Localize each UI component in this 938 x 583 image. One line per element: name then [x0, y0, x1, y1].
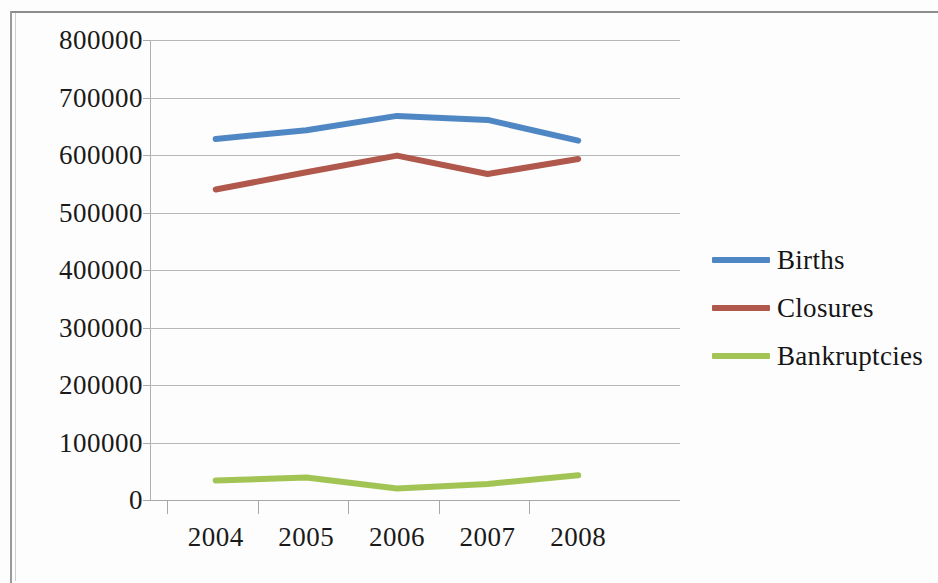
y-axis-tick [143, 328, 150, 329]
y-axis-tick-label: 400000 [59, 257, 143, 284]
y-axis-tick-label: 600000 [59, 142, 143, 169]
chart-screenshot: 8000007000006000005000004000003000002000… [0, 0, 938, 583]
legend-swatch-births-icon [712, 257, 770, 263]
x-axis-tick-label: 2008 [533, 522, 623, 553]
y-axis-tick-label: 200000 [59, 372, 143, 399]
page-frame-top-rule [10, 11, 938, 13]
x-axis-tick [348, 500, 349, 514]
legend-item-closures: Closures [712, 284, 932, 332]
page-frame-left-inner-rule [15, 13, 16, 581]
x-axis-line [150, 500, 680, 501]
gridline [150, 155, 680, 156]
legend-swatch-bankruptcies-icon [712, 353, 770, 359]
y-axis-tick [143, 500, 150, 501]
y-axis-tick-labels: 8000007000006000005000004000003000002000… [18, 40, 143, 500]
y-axis-tick-label: 300000 [59, 315, 143, 342]
gridline [150, 270, 680, 271]
gridline [150, 213, 680, 214]
chart-legend: Births Closures Bankruptcies [712, 236, 932, 380]
x-axis-tick [167, 500, 168, 514]
page-frame-left-rule [10, 11, 12, 583]
y-axis-tick [143, 98, 150, 99]
gridline [150, 98, 680, 99]
y-axis-tick-label: 700000 [59, 85, 143, 112]
y-axis-tick-label: 800000 [59, 27, 143, 54]
legend-swatch-closures-icon [712, 305, 770, 311]
y-axis-tick [143, 443, 150, 444]
y-axis-tick [143, 40, 150, 41]
gridline [150, 328, 680, 329]
y-axis-tick [143, 385, 150, 386]
gridline [150, 40, 680, 41]
x-axis-tick-label: 2007 [443, 522, 533, 553]
y-axis-tick [143, 155, 150, 156]
plot-area [150, 40, 680, 500]
legend-item-births: Births [712, 236, 932, 284]
y-axis-tick [143, 213, 150, 214]
y-axis-tick [143, 270, 150, 271]
legend-label-bankruptcies: Bankruptcies [777, 343, 923, 370]
x-axis-tick-label: 2006 [352, 522, 442, 553]
legend-label-closures: Closures [777, 295, 874, 322]
y-axis-tick-label: 500000 [59, 200, 143, 227]
legend-item-bankruptcies: Bankruptcies [712, 332, 932, 380]
gridline [150, 443, 680, 444]
y-axis-tick-label: 100000 [59, 430, 143, 457]
x-axis-tick [258, 500, 259, 514]
x-axis-tick-label: 2005 [261, 522, 351, 553]
x-axis-tick-label: 2004 [171, 522, 261, 553]
x-axis-tick [529, 500, 530, 514]
x-axis-tick [439, 500, 440, 514]
gridline [150, 385, 680, 386]
legend-label-births: Births [777, 247, 845, 274]
y-axis-tick-label: 0 [129, 487, 143, 514]
